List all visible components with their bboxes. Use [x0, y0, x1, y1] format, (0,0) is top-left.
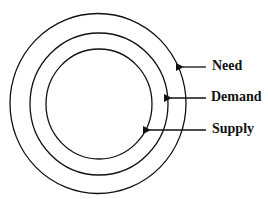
demand-circle	[30, 33, 168, 175]
need-label: Need	[212, 58, 242, 74]
need-circle	[10, 14, 186, 194]
demand-label: Demand	[211, 89, 262, 105]
supply-circle	[46, 49, 152, 159]
supply-label: Supply	[212, 121, 254, 137]
